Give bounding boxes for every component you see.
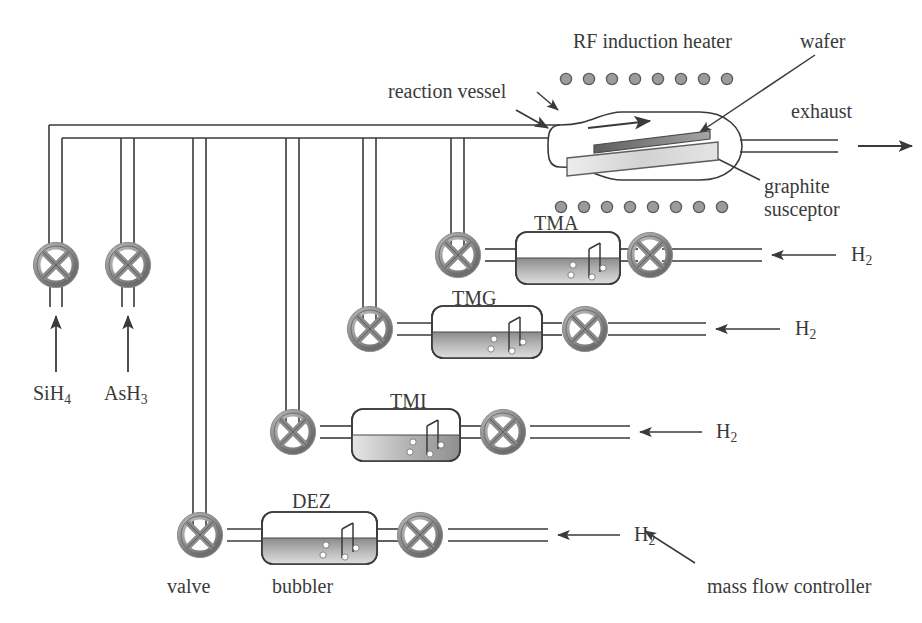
label-dez: DEZ bbox=[292, 491, 331, 511]
label-reaction-vessel: reaction vessel bbox=[388, 81, 506, 101]
label-susceptor: susceptor bbox=[764, 199, 840, 219]
bubbler-dez bbox=[262, 512, 377, 564]
label-bubbler: bubbler bbox=[272, 576, 333, 596]
valve-ash3[interactable] bbox=[105, 242, 150, 287]
main-manifold-pipe bbox=[49, 125, 560, 250]
label-h2-tmg: H2 bbox=[795, 318, 816, 341]
valve-tma[interactable] bbox=[435, 232, 480, 277]
label-tmi: TMI bbox=[390, 391, 427, 411]
label-tmg: TMG bbox=[452, 288, 496, 308]
label-h2-dez: H2 bbox=[634, 524, 655, 547]
gas-flow-arrow bbox=[588, 121, 650, 128]
valve-tmi[interactable] bbox=[270, 409, 315, 454]
mass-flow-controller-tma[interactable] bbox=[627, 232, 672, 277]
exhaust-pipe bbox=[740, 140, 838, 152]
label-rf-induction-heater: RF induction heater bbox=[573, 31, 732, 51]
h2-direction-arrows bbox=[558, 255, 836, 535]
label-ash3: AsH3 bbox=[104, 383, 147, 406]
valve-tmg[interactable] bbox=[347, 306, 392, 351]
label-mass-flow-controller: mass flow controller bbox=[707, 576, 871, 596]
label-graphite: graphite bbox=[764, 176, 830, 196]
manifold-drop-legs bbox=[121, 138, 464, 527]
bubbler-tma bbox=[516, 232, 620, 284]
valve-dez[interactable] bbox=[177, 512, 222, 557]
valve-sih4[interactable] bbox=[33, 242, 78, 287]
rf-induction-coil-bottom bbox=[555, 201, 727, 212]
label-wafer: wafer bbox=[800, 31, 846, 51]
bubbler-tmg bbox=[432, 306, 542, 358]
mass-flow-controller-tmi[interactable] bbox=[480, 409, 525, 454]
label-h2-tma: H2 bbox=[851, 244, 872, 267]
mass-flow-controller-dez[interactable] bbox=[397, 512, 442, 557]
rf-induction-coil-top bbox=[560, 73, 732, 84]
label-h2-tmi: H2 bbox=[716, 421, 737, 444]
mocvd-reactor-diagram: RF induction heater wafer reaction vesse… bbox=[0, 0, 922, 623]
label-sih4: SiH4 bbox=[33, 383, 71, 406]
bubbler-tmi bbox=[352, 409, 460, 461]
label-tma: TMA bbox=[534, 213, 578, 233]
label-exhaust: exhaust bbox=[791, 101, 852, 121]
leader-reaction-vessel bbox=[537, 92, 558, 110]
label-valve: valve bbox=[167, 576, 210, 596]
mass-flow-controller-tmg[interactable] bbox=[562, 306, 607, 351]
